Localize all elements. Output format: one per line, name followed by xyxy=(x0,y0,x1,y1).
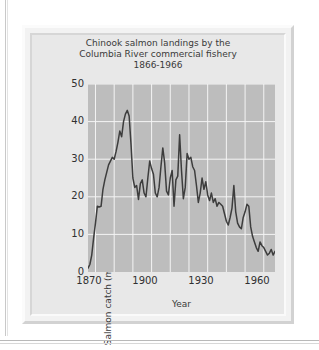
page-left-rule xyxy=(5,0,6,336)
page-left-rule-secondary xyxy=(7,0,8,336)
page-bottom-rule xyxy=(0,340,319,341)
chart-title-line-3: 1866-1966 xyxy=(40,60,276,71)
chart-canvas xyxy=(88,84,275,272)
x-tick-label-1900: 1900 xyxy=(125,276,165,286)
chart-title-line-1: Chinook salmon landings by the xyxy=(40,38,276,49)
chart-title: Chinook salmon landings by the Columbia … xyxy=(40,38,276,72)
figure-page: Chinook salmon landings by the Columbia … xyxy=(0,0,319,350)
chart-title-line-2: Columbia River commercial fishery xyxy=(40,49,276,60)
page-bottom-rule-secondary xyxy=(0,343,319,344)
x-axis-title: Year xyxy=(88,299,275,309)
x-tick-label-1870: 1870 xyxy=(69,276,109,286)
x-tick-label-1930: 1930 xyxy=(181,276,221,286)
gridlines-vertical xyxy=(95,84,263,272)
plot-area xyxy=(88,84,275,272)
series-line-chinook-landings xyxy=(88,110,275,268)
y-axis-title-wrap: Salmon catch (millioms of pounds) xyxy=(52,84,66,272)
x-tick-label-1960: 1960 xyxy=(237,276,277,286)
